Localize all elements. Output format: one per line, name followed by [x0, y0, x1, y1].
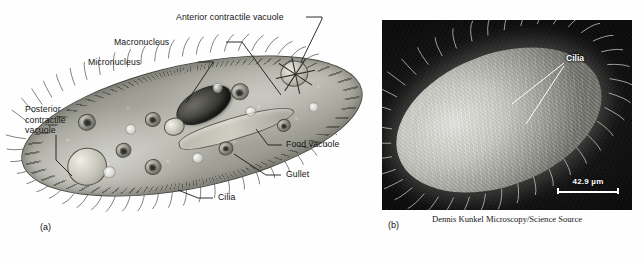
- label-cilia-micrograph: Cilia: [566, 53, 584, 63]
- label-cilia: Cilia: [218, 192, 235, 203]
- scale-bar-label: 42.9 µm: [557, 177, 619, 186]
- panel-a-illustration: Anterior contractile vacuole Macronucleu…: [0, 0, 382, 260]
- label-posterior-contractile-vacuole: Posterior contractile vacuole: [25, 104, 66, 136]
- label-line-3: vacuole: [25, 125, 66, 136]
- micrograph-image: Cilia 42.9 µm: [382, 20, 632, 210]
- panel-a-letter: (a): [40, 222, 51, 232]
- label-micronucleus: Micronucleus: [88, 57, 140, 68]
- photo-credit: Dennis Kunkel Microscopy/Science Source: [382, 214, 632, 224]
- scale-bar: 42.9 µm: [557, 177, 619, 194]
- label-gullet: Gullet: [286, 169, 309, 180]
- figure-paramecium-anatomy: Anterior contractile vacuole Macronucleu…: [0, 0, 644, 260]
- panel-b-letter: (b): [388, 220, 399, 230]
- scale-bar-line: [557, 188, 619, 194]
- label-line-2: contractile: [25, 115, 66, 126]
- label-anterior-contractile-vacuole: Anterior contractile vacuole: [176, 12, 284, 23]
- label-food-vacuole: Food vacuole: [286, 139, 339, 150]
- label-line-1: Posterior: [25, 104, 66, 115]
- panel-b-micrograph: Cilia 42.9 µm: [382, 20, 632, 210]
- label-macronucleus: Macronucleus: [114, 37, 169, 48]
